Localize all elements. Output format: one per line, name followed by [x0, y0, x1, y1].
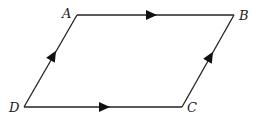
parallelogram-diagram: A B C D: [0, 0, 259, 120]
vertex-label-c: C: [187, 100, 197, 115]
arrow-right-icon: [146, 10, 157, 20]
vertex-label-b: B: [238, 8, 249, 23]
vertex-label-a: A: [61, 6, 71, 21]
arrow-right-icon: [99, 102, 110, 112]
vertex-label-d: D: [8, 100, 20, 115]
arrow-up-icon: [46, 48, 60, 63]
arrow-up-icon: [203, 49, 217, 64]
edge-da: [24, 15, 77, 107]
